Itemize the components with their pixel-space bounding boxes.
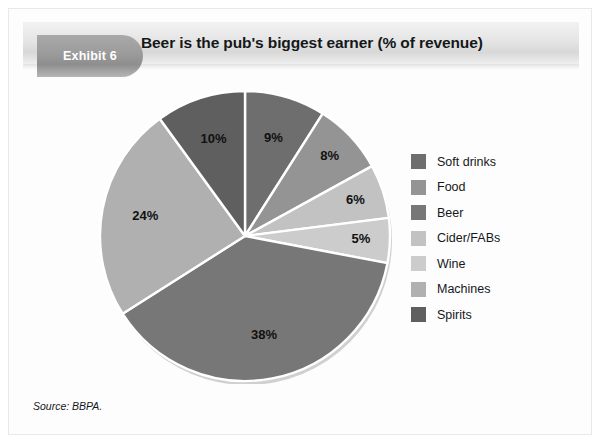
pie-slice-value-label: 6% — [346, 192, 365, 207]
legend-item[interactable]: Cider/FABs — [411, 226, 581, 252]
legend-swatch-icon — [411, 154, 426, 169]
exhibit-figure: Exhibit 6 Beer is the pub's biggest earn… — [8, 8, 592, 435]
legend-item[interactable]: Beer — [411, 200, 581, 226]
legend-swatch-icon — [411, 282, 426, 297]
pie-slice-value-label: 9% — [264, 130, 283, 145]
legend-item[interactable]: Machines — [411, 277, 581, 303]
legend-item-label: Food — [437, 180, 466, 194]
pie-chart: 9%8%6%5%38%24%10% — [97, 88, 393, 384]
legend-item-label: Cider/FABs — [437, 231, 500, 245]
legend-item-label: Soft drinks — [437, 155, 496, 169]
chart-legend: Soft drinks Food Beer Cider/FABs Wine Ma… — [411, 149, 581, 328]
pie-slice-value-label: 38% — [251, 327, 277, 342]
legend-item-label: Beer — [437, 206, 463, 220]
legend-item-label: Machines — [437, 282, 491, 296]
legend-swatch-icon — [411, 231, 426, 246]
pie-slice-value-label: 8% — [320, 148, 339, 163]
pie-slice-value-label: 5% — [352, 231, 371, 246]
legend-item-label: Spirits — [437, 308, 472, 322]
legend-swatch-icon — [411, 180, 426, 195]
chart-title: Beer is the pub's biggest earner (% of r… — [141, 22, 483, 64]
legend-item-label: Wine — [437, 257, 465, 271]
pie-slice-value-label: 24% — [132, 208, 158, 223]
legend-item[interactable]: Spirits — [411, 302, 581, 328]
pie-slice-group — [100, 91, 390, 381]
exhibit-badge-label: Exhibit 6 — [63, 49, 117, 63]
legend-swatch-icon — [411, 307, 426, 322]
plot-area: 9%8%6%5%38%24%10% Soft drinks Food Beer … — [9, 71, 593, 401]
legend-swatch-icon — [411, 205, 426, 220]
legend-item[interactable]: Wine — [411, 251, 581, 277]
legend-item[interactable]: Soft drinks — [411, 149, 581, 175]
legend-item[interactable]: Food — [411, 175, 581, 201]
source-note: Source: BBPA. — [33, 400, 102, 412]
pie-slice-value-label: 10% — [201, 131, 227, 146]
pie-chart-svg: 9%8%6%5%38%24%10% — [97, 88, 393, 384]
legend-swatch-icon — [411, 256, 426, 271]
